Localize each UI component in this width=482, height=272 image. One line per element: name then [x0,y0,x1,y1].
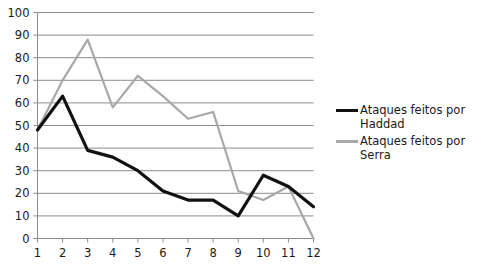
y-tick-label: 0 [22,232,29,246]
series-line [38,96,314,216]
x-tick-label: 12 [306,246,321,260]
chart-figure: 0102030405060708090100 123456789101112 A… [0,0,482,272]
y-tick-label: 100 [8,6,30,20]
y-tick-label: 40 [15,141,30,155]
x-tick-label: 5 [134,246,141,260]
x-tick-label: 10 [256,246,271,260]
y-tick-label: 50 [15,119,30,133]
x-tick-label: 8 [209,246,216,260]
legend-label-haddad: Ataques feitos por Haddad [360,103,465,131]
x-tick-label: 9 [235,246,242,260]
data-series [38,40,314,239]
x-tick-label: 6 [159,246,166,260]
y-tick-labels: 0102030405060708090100 [8,6,30,246]
y-tick-label: 80 [15,51,30,65]
y-tick-label: 30 [15,164,30,178]
x-tick-label: 4 [109,246,116,260]
legend-label-serra: Ataques feitos por Serra [360,134,465,162]
line-swatch-black-icon [336,109,358,112]
series-line [38,40,314,239]
y-tick-label: 70 [15,73,30,87]
grid-lines [38,13,314,239]
y-tick-label: 60 [15,96,30,110]
legend-item-serra: Ataques feitos por Serra [336,134,482,162]
x-tick-label: 11 [281,246,296,260]
y-axis [34,13,38,239]
line-swatch-gray-icon [336,140,358,143]
x-tick-labels: 123456789101112 [34,246,321,260]
y-tick-label: 10 [15,209,30,223]
y-tick-label: 90 [15,28,30,42]
x-axis [38,239,314,243]
chart-legend: Ataques feitos por Haddad Ataques feitos… [336,103,482,165]
x-tick-label: 3 [84,246,91,260]
x-tick-label: 1 [34,246,41,260]
y-tick-label: 20 [15,186,30,200]
x-tick-label: 2 [59,246,66,260]
legend-item-haddad: Ataques feitos por Haddad [336,103,482,131]
x-tick-label: 7 [184,246,191,260]
